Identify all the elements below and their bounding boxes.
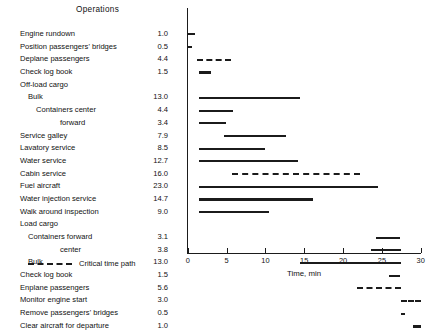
operation-label: Clear aircraft for departure (20, 320, 109, 333)
task-bar (300, 262, 401, 264)
operation-duration-value: 1.0 (157, 320, 168, 333)
task-bar (371, 249, 401, 251)
legend-label: Critical time path (79, 259, 136, 268)
x-axis-tick-label: 10 (261, 256, 269, 265)
task-bar (199, 122, 225, 124)
x-axis-tick-label: 5 (224, 256, 228, 265)
x-axis-tick (304, 248, 305, 253)
critical-path-bar (232, 173, 360, 175)
x-axis-tick (343, 248, 344, 253)
operation-duration-value: 3.0 (157, 294, 168, 307)
task-bar (199, 160, 298, 162)
task-bar (199, 148, 265, 150)
x-axis-tick (227, 248, 228, 253)
task-bar (199, 97, 300, 99)
y-axis-line (187, 8, 188, 254)
task-bar (199, 110, 233, 112)
critical-path-bar (188, 33, 196, 35)
critical-path-bar (197, 59, 231, 61)
task-bar (376, 237, 400, 239)
x-axis-line (187, 253, 421, 254)
critical-path-dash-icon (28, 263, 72, 265)
task-bar (413, 325, 421, 327)
task-bar (199, 198, 313, 200)
task-bar (188, 46, 192, 48)
operation-duration-value: 0.5 (157, 307, 168, 320)
task-bar (199, 211, 269, 213)
x-axis-tick-label: 0 (186, 256, 190, 265)
task-bar (199, 186, 378, 188)
critical-path-bar (401, 300, 421, 302)
x-axis-tick (265, 248, 266, 253)
task-bar (199, 71, 211, 73)
critical-path-bar (357, 287, 401, 289)
operation-label: Monitor engine start (20, 294, 87, 307)
x-axis-tick (421, 248, 422, 253)
x-axis-tick-label: 30 (417, 256, 425, 265)
x-axis-title: Time, min (287, 269, 321, 278)
operation-row: Clear aircraft for departure1.0 (0, 320, 178, 333)
task-bar (224, 135, 285, 137)
operation-row: Remove passengers' bridges0.5 (0, 307, 178, 320)
operation-row: Monitor engine start3.0 (0, 294, 178, 307)
task-bar (401, 313, 406, 315)
operation-label: Remove passengers' bridges (20, 307, 118, 320)
task-bar (389, 275, 401, 277)
legend: Critical time path (28, 259, 136, 268)
x-axis-tick (188, 248, 189, 253)
